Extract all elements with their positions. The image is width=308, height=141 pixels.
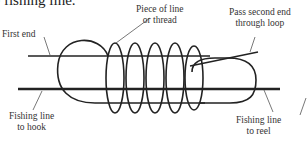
leader-first-end — [44, 37, 50, 55]
label-piece-of-line-line2: or thread — [136, 15, 183, 26]
label-pass-second-end: Pass second end through loop — [229, 7, 291, 29]
leader-pass-second-end — [250, 37, 255, 52]
leader-line-to-reel — [264, 90, 273, 112]
label-line-to-hook: Fishing line to hook — [9, 111, 54, 133]
label-line-to-hook-line1: Fishing line — [9, 111, 54, 122]
label-pass-second-end-line2: through loop — [229, 18, 291, 29]
label-piece-of-line: Piece of line or thread — [136, 4, 183, 26]
label-first-end: First end — [2, 29, 36, 40]
stray-mark — [300, 98, 306, 115]
label-pass-second-end-line1: Pass second end — [229, 7, 291, 18]
label-line-to-reel-line2: to reel — [236, 126, 281, 137]
leader-line-to-hook — [33, 91, 42, 110]
label-first-end-text: First end — [2, 29, 36, 39]
label-line-to-hook-line2: to hook — [9, 122, 54, 133]
label-line-to-reel: Fishing line to reel — [236, 115, 281, 137]
label-line-to-reel-line1: Fishing line — [236, 115, 281, 126]
label-piece-of-line-line1: Piece of line — [136, 4, 183, 15]
